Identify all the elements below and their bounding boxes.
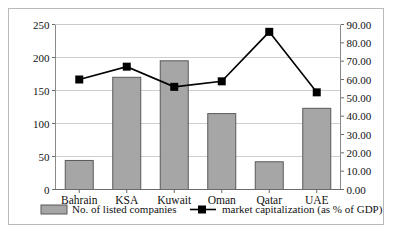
y-tick-label-right: 70.00 [347, 55, 372, 67]
bar [303, 108, 331, 189]
data-point-marker [123, 63, 131, 71]
legend-line-marker [198, 206, 206, 214]
bar [255, 162, 283, 190]
line-markers [75, 28, 321, 97]
gridlines [56, 58, 341, 157]
data-point-marker [218, 77, 226, 85]
y-tick-label-left: 50 [39, 151, 51, 163]
y-tick-label-right: 50.00 [347, 92, 372, 104]
data-point-marker [170, 83, 178, 91]
y-tick-label-right: 90.00 [347, 19, 372, 31]
y-tick-label-right: 60.00 [347, 74, 372, 86]
data-point-marker [75, 76, 83, 84]
combo-chart: 050100150200250 0.0010.0020.0030.0040.00… [0, 0, 400, 238]
legend-bar-swatch [41, 205, 67, 214]
y-tick-label-right: 20.00 [347, 147, 372, 159]
bar [113, 77, 141, 189]
bar [65, 160, 93, 189]
y-tick-label-right: 40.00 [347, 110, 372, 122]
y-tick-label-right: 0.00 [347, 184, 367, 196]
y-axis-right-ticks: 0.0010.0020.0030.0040.0050.0060.0070.008… [341, 19, 372, 196]
y-tick-label-left: 100 [33, 118, 50, 130]
y-tick-label-right: 10.00 [347, 165, 372, 177]
bar [160, 61, 188, 190]
data-point-marker [265, 28, 273, 36]
bar [208, 114, 236, 190]
legend-bar-label: No. of listed companies [72, 203, 176, 215]
y-tick-label-left: 200 [33, 52, 50, 64]
y-tick-label-left: 250 [33, 19, 50, 31]
bar-series-listed-companies [65, 61, 331, 190]
y-tick-label-right: 80.00 [347, 37, 372, 49]
y-tick-label-right: 30.00 [347, 129, 372, 141]
data-point-marker [313, 88, 321, 96]
y-axis-left-ticks: 050100150200250 [33, 19, 56, 196]
legend-line-label: market capitalization (as % of GDP) [222, 203, 383, 216]
y-tick-label-left: 0 [44, 184, 50, 196]
y-tick-label-left: 150 [33, 85, 50, 97]
